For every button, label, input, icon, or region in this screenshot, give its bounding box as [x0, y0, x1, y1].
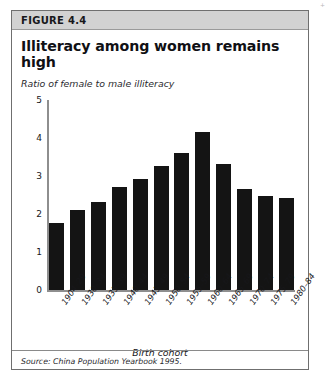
bar-slot	[49, 100, 65, 290]
x-label-slot: 1904–29	[49, 295, 65, 343]
x-label-slot: 1975–79	[258, 295, 274, 343]
bar	[195, 132, 210, 290]
figure-number-label: FIGURE 4.4	[21, 15, 87, 26]
bar-slot	[174, 100, 190, 290]
source-note: Source: China Population Yearbook 1995.	[21, 357, 182, 366]
x-label-slot: 1945–49	[132, 295, 148, 343]
bar-slot	[278, 100, 294, 290]
bar-slot	[69, 100, 85, 290]
page-corner-mark: +	[320, 2, 325, 7]
x-label-slot: 1950–54	[153, 295, 169, 343]
x-label-slot: 1930–34	[69, 295, 85, 343]
x-label-slot: 1960–64	[195, 295, 211, 343]
figure-subtitle: Ratio of female to male illiteracy	[12, 70, 308, 89]
bar	[154, 166, 169, 290]
bar-slot	[153, 100, 169, 290]
chart-axes: 012345	[47, 100, 295, 291]
source-divider	[12, 350, 308, 351]
bar-slot	[90, 100, 106, 290]
y-tick-label: 1	[36, 247, 42, 257]
y-tick-label: 4	[36, 133, 42, 143]
bar-slot	[216, 100, 232, 290]
x-label-slot: 1970–74	[237, 295, 253, 343]
y-tick-label: 2	[36, 209, 42, 219]
y-tick-label: 5	[36, 95, 42, 105]
figure-panel: FIGURE 4.4 Illiteracy among women remain…	[11, 10, 309, 370]
bar-slot	[132, 100, 148, 290]
bar-slot	[258, 100, 274, 290]
x-label-slot: 1940–44	[111, 295, 127, 343]
bar-slot	[111, 100, 127, 290]
figure-header: FIGURE 4.4	[12, 11, 308, 30]
bar-slot	[195, 100, 211, 290]
bar-series	[49, 100, 295, 290]
chart-plot-area: 012345 1904–291930–341935–391940–441945–…	[12, 96, 308, 346]
bar	[216, 164, 231, 289]
figure-title: Illiteracy among women remains high	[12, 30, 308, 70]
bar	[174, 153, 189, 290]
x-axis-tick-labels: 1904–291930–341935–391940–441945–491950–…	[49, 295, 295, 343]
x-label-slot: 1980–84	[278, 295, 294, 343]
bar-slot	[237, 100, 253, 290]
x-label-slot: 1965–69	[216, 295, 232, 343]
y-tick-label: 0	[36, 285, 42, 295]
x-label-slot: 1935–39	[90, 295, 106, 343]
bar	[49, 223, 64, 290]
x-label-slot: 1955–59	[174, 295, 190, 343]
y-tick-label: 3	[36, 171, 42, 181]
